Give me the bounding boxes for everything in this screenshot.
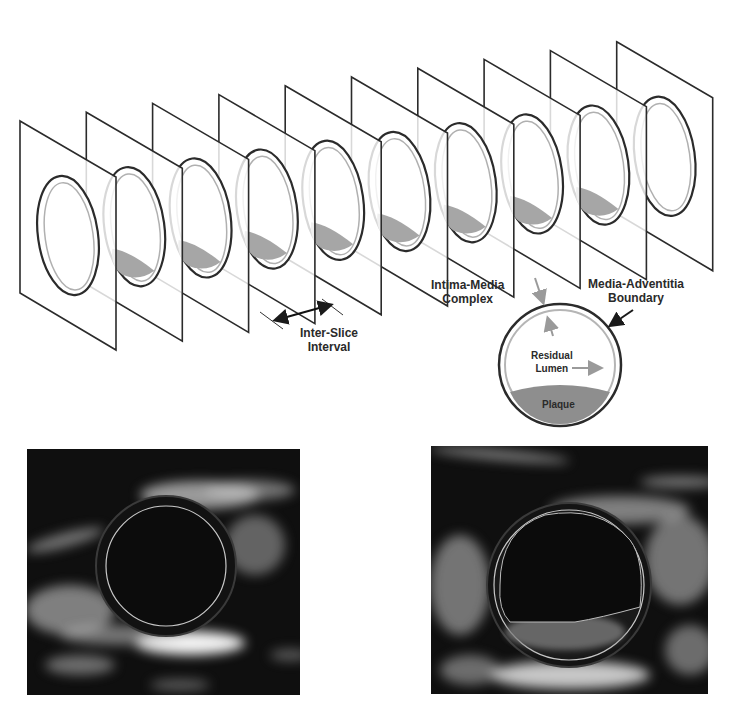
media-adventitia-label-line1: Media-Adventitia — [588, 277, 684, 291]
plaque-label: Plaque — [542, 398, 575, 412]
intima-media-arrow — [535, 278, 543, 302]
slice-diagram — [0, 0, 732, 704]
residual-lumen-label: Residual Lumen — [531, 349, 573, 375]
inter-slice-label-line2: Interval — [300, 340, 358, 354]
intima-media-label-line1: Intima-Media — [431, 278, 504, 292]
inter-slice-label: Inter-Slice Interval — [300, 326, 358, 354]
intima-media-label-line2: Complex — [431, 292, 504, 306]
residual-lumen-label-line2: Lumen — [531, 362, 573, 375]
residual-lumen-label-line1: Residual — [531, 349, 573, 362]
inter-slice-label-line1: Inter-Slice — [300, 326, 358, 340]
media-adventitia-label: Media-Adventitia Boundary — [588, 277, 684, 305]
ultrasound-plaque — [430, 444, 720, 694]
ultrasound-normal — [25, 449, 310, 695]
media-adventitia-arrow — [611, 310, 633, 325]
media-adventitia-label-line2: Boundary — [588, 291, 684, 305]
intima-media-label: Intima-Media Complex — [431, 278, 504, 306]
